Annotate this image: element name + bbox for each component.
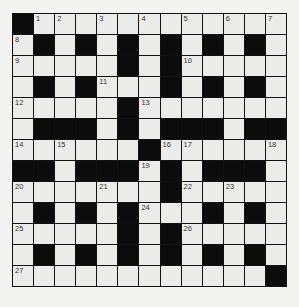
answer-cell[interactable]: 7 xyxy=(266,14,286,34)
answer-cell[interactable] xyxy=(224,245,244,265)
answer-cell[interactable]: 21 xyxy=(97,182,117,202)
answer-cell[interactable] xyxy=(139,224,159,244)
answer-cell[interactable] xyxy=(139,119,159,139)
answer-cell[interactable] xyxy=(203,56,223,76)
answer-cell[interactable] xyxy=(118,182,138,202)
answer-cell[interactable] xyxy=(266,245,286,265)
answer-cell[interactable] xyxy=(224,266,244,286)
answer-cell[interactable] xyxy=(266,203,286,223)
answer-cell[interactable] xyxy=(55,182,75,202)
answer-cell[interactable] xyxy=(34,224,54,244)
answer-cell[interactable]: 14 xyxy=(13,140,33,160)
answer-cell[interactable]: 25 xyxy=(13,224,33,244)
answer-cell[interactable] xyxy=(182,77,202,97)
answer-cell[interactable] xyxy=(76,224,96,244)
answer-cell[interactable] xyxy=(224,119,244,139)
answer-cell[interactable] xyxy=(97,35,117,55)
answer-cell[interactable]: 19 xyxy=(139,161,159,181)
answer-cell[interactable] xyxy=(224,140,244,160)
answer-cell[interactable] xyxy=(97,140,117,160)
answer-cell[interactable] xyxy=(203,98,223,118)
answer-cell[interactable] xyxy=(139,245,159,265)
answer-cell[interactable]: 1 xyxy=(34,14,54,34)
answer-cell[interactable] xyxy=(34,182,54,202)
answer-cell[interactable] xyxy=(266,98,286,118)
answer-cell[interactable] xyxy=(76,14,96,34)
answer-cell[interactable] xyxy=(161,14,181,34)
answer-cell[interactable] xyxy=(182,98,202,118)
answer-cell[interactable] xyxy=(13,77,33,97)
answer-cell[interactable] xyxy=(182,161,202,181)
answer-cell[interactable] xyxy=(161,266,181,286)
answer-cell[interactable]: 26 xyxy=(182,224,202,244)
answer-cell[interactable]: 16 xyxy=(161,140,181,160)
answer-cell[interactable] xyxy=(266,161,286,181)
answer-cell[interactable]: 23 xyxy=(224,182,244,202)
answer-cell[interactable]: 12 xyxy=(13,98,33,118)
answer-cell[interactable] xyxy=(224,203,244,223)
answer-cell[interactable] xyxy=(161,98,181,118)
answer-cell[interactable] xyxy=(55,35,75,55)
answer-cell[interactable] xyxy=(13,245,33,265)
answer-cell[interactable] xyxy=(161,203,181,223)
answer-cell[interactable] xyxy=(34,56,54,76)
answer-cell[interactable] xyxy=(97,119,117,139)
answer-cell[interactable] xyxy=(203,140,223,160)
answer-cell[interactable] xyxy=(55,245,75,265)
answer-cell[interactable] xyxy=(139,266,159,286)
answer-cell[interactable]: 18 xyxy=(266,140,286,160)
answer-cell[interactable] xyxy=(97,203,117,223)
answer-cell[interactable] xyxy=(34,140,54,160)
answer-cell[interactable]: 15 xyxy=(55,140,75,160)
answer-cell[interactable] xyxy=(55,224,75,244)
answer-cell[interactable] xyxy=(139,182,159,202)
answer-cell[interactable] xyxy=(245,224,265,244)
answer-cell[interactable] xyxy=(203,14,223,34)
answer-cell[interactable] xyxy=(76,56,96,76)
answer-cell[interactable] xyxy=(224,77,244,97)
answer-cell[interactable]: 6 xyxy=(224,14,244,34)
answer-cell[interactable]: 13 xyxy=(139,98,159,118)
answer-cell[interactable]: 10 xyxy=(182,56,202,76)
answer-cell[interactable] xyxy=(266,35,286,55)
answer-cell[interactable] xyxy=(13,203,33,223)
answer-cell[interactable] xyxy=(182,245,202,265)
answer-cell[interactable] xyxy=(97,98,117,118)
answer-cell[interactable] xyxy=(76,266,96,286)
answer-cell[interactable] xyxy=(245,14,265,34)
answer-cell[interactable] xyxy=(97,224,117,244)
answer-cell[interactable]: 11 xyxy=(97,77,117,97)
answer-cell[interactable]: 9 xyxy=(13,56,33,76)
answer-cell[interactable] xyxy=(182,266,202,286)
answer-cell[interactable] xyxy=(266,224,286,244)
answer-cell[interactable]: 5 xyxy=(182,14,202,34)
answer-cell[interactable] xyxy=(118,77,138,97)
answer-cell[interactable] xyxy=(245,140,265,160)
answer-cell[interactable] xyxy=(55,161,75,181)
answer-cell[interactable] xyxy=(203,182,223,202)
answer-cell[interactable]: 24 xyxy=(139,203,159,223)
answer-cell[interactable]: 3 xyxy=(97,14,117,34)
answer-cell[interactable] xyxy=(203,224,223,244)
answer-cell[interactable] xyxy=(182,35,202,55)
answer-cell[interactable] xyxy=(266,182,286,202)
answer-cell[interactable]: 20 xyxy=(13,182,33,202)
answer-cell[interactable] xyxy=(118,266,138,286)
answer-cell[interactable] xyxy=(55,266,75,286)
answer-cell[interactable] xyxy=(245,182,265,202)
answer-cell[interactable] xyxy=(182,203,202,223)
answer-cell[interactable] xyxy=(139,77,159,97)
answer-cell[interactable] xyxy=(224,224,244,244)
answer-cell[interactable] xyxy=(34,266,54,286)
answer-cell[interactable] xyxy=(266,56,286,76)
answer-cell[interactable] xyxy=(118,140,138,160)
answer-cell[interactable] xyxy=(76,182,96,202)
answer-cell[interactable] xyxy=(245,266,265,286)
answer-cell[interactable] xyxy=(245,98,265,118)
answer-cell[interactable] xyxy=(266,77,286,97)
answer-cell[interactable] xyxy=(118,14,138,34)
answer-cell[interactable] xyxy=(76,98,96,118)
answer-cell[interactable] xyxy=(55,203,75,223)
answer-cell[interactable] xyxy=(34,98,54,118)
answer-cell[interactable] xyxy=(224,98,244,118)
